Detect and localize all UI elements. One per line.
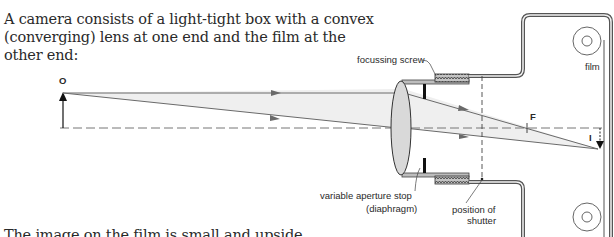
shutter-label-line2: shutter	[467, 215, 496, 226]
footer-text: The image on the film is small and upsid…	[4, 226, 304, 237]
object-label: O	[59, 75, 66, 86]
refracted-beam	[404, 89, 598, 149]
film-label: film	[585, 61, 600, 72]
focussing-screw-label: focussing screw	[357, 54, 425, 65]
image-label: I	[589, 132, 592, 143]
camera-diagram: O	[0, 0, 614, 237]
film-spool-bottom	[573, 203, 601, 231]
image-arrow	[596, 128, 604, 149]
convex-lens	[391, 81, 411, 175]
aperture-label-line1: variable aperture stop	[320, 190, 412, 201]
aperture-label-line2: (diaphragm)	[366, 203, 417, 214]
object-arrow	[59, 92, 67, 128]
film-spool-top	[573, 27, 601, 55]
focal-point-label: F	[530, 111, 536, 122]
incident-beam	[63, 89, 398, 128]
aperture-leader	[415, 168, 420, 191]
shutter-label-line1: position of	[452, 204, 496, 215]
